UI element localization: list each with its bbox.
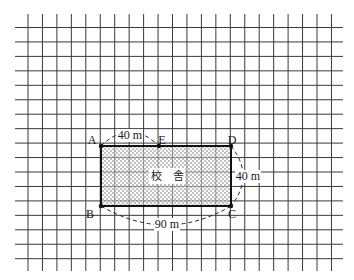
- point-label-e: E: [158, 133, 165, 147]
- diagram-canvas: 校 舎 AEDBC 40 m40 m90 m: [0, 0, 354, 280]
- measurement-label-bc: 90 m: [155, 217, 180, 231]
- point-label-b: B: [86, 207, 94, 221]
- measurement-label-dc: 40 m: [236, 169, 261, 183]
- grid-lines: [15, 14, 343, 271]
- school-grid-diagram: 校 舎 AEDBC 40 m40 m90 m: [0, 0, 354, 280]
- vertex-dot: [99, 204, 103, 208]
- point-label-c: C: [228, 207, 236, 221]
- vertex-dot: [99, 144, 103, 148]
- point-label-d: D: [228, 133, 237, 147]
- measurement-label-ae: 40 m: [118, 128, 143, 142]
- point-label-a: A: [88, 133, 97, 147]
- building-label: 校 舎: [151, 169, 184, 183]
